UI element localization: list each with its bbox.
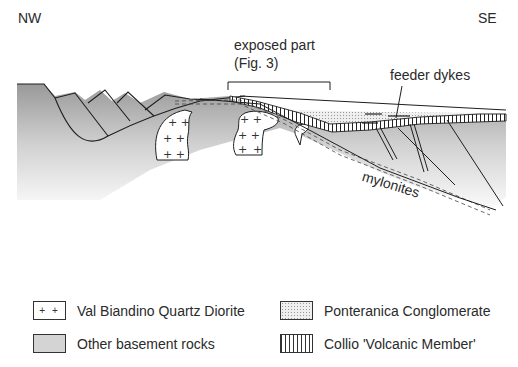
svg-text:+ +: + +: [163, 132, 185, 145]
geological-cross-section: + ++ ++ + + ++ +++: [0, 0, 518, 290]
svg-text:+ +: + +: [163, 148, 185, 161]
vertical-lines-pattern-icon: [280, 334, 313, 353]
legend-item-quartz-diorite: + + Val Biandino Quartz Diorite: [33, 301, 245, 320]
svg-text:+ +: + +: [168, 116, 190, 129]
svg-text:+: +: [253, 143, 262, 156]
cross-pattern-icon: + +: [33, 301, 66, 320]
legend-item-ponteranica: Ponteranica Conglomerate: [280, 301, 491, 320]
svg-text:+ +: + +: [238, 129, 260, 142]
dotted-pattern-icon: [280, 301, 313, 320]
grey-fill-icon: [33, 334, 66, 353]
legend-item-collio: Collio 'Volcanic Member': [280, 334, 476, 353]
svg-text:+: +: [238, 143, 247, 156]
svg-text:+ +: + +: [240, 113, 262, 126]
exposed-part-bracket: [228, 82, 330, 90]
legend-item-basement: Other basement rocks: [33, 334, 215, 353]
